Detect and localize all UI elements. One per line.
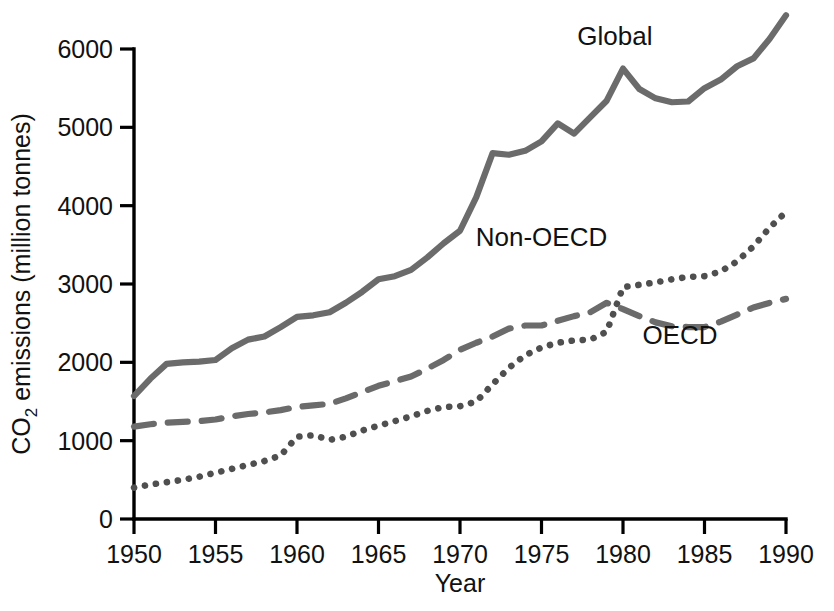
y-tick-label: 5000 xyxy=(57,113,113,141)
series-label-non-oecd: Non-OECD xyxy=(476,222,607,252)
y-tick-label: 4000 xyxy=(57,192,113,220)
x-tick-label: 1970 xyxy=(432,540,488,568)
x-tick-label: 1980 xyxy=(595,540,651,568)
y-tick-label: 3000 xyxy=(57,270,113,298)
series-label-global: Global xyxy=(577,21,652,51)
chart-figure: 0100020003000400050006000 19501955196019… xyxy=(0,0,834,611)
y-tick-label: 2000 xyxy=(57,348,113,376)
x-tick-label: 1990 xyxy=(758,540,814,568)
x-tick-label: 1975 xyxy=(514,540,570,568)
y-axis-title-main: CO xyxy=(7,417,35,455)
y-tick-group: 0100020003000400050006000 xyxy=(57,35,134,533)
y-tick-label: 1000 xyxy=(57,427,113,455)
x-tick-group: 195019551960196519701975198019851990 xyxy=(106,519,814,568)
series-label-oecd: OECD xyxy=(642,320,717,350)
x-tick-label: 1965 xyxy=(351,540,407,568)
co2-emissions-line-chart: 0100020003000400050006000 19501955196019… xyxy=(0,0,834,611)
y-axis-title-subscript: 2 xyxy=(22,408,41,417)
x-tick-label: 1985 xyxy=(677,540,733,568)
data-series-group xyxy=(134,15,786,487)
y-axis-title-rest: emissions (million tonnes) xyxy=(7,113,35,408)
x-tick-label: 1960 xyxy=(269,540,325,568)
y-axis-title: CO2 emissions (million tonnes) xyxy=(7,113,41,455)
x-tick-label: 1950 xyxy=(106,540,162,568)
x-tick-label: 1955 xyxy=(188,540,244,568)
x-axis-title: Year xyxy=(435,569,486,597)
y-tick-label: 6000 xyxy=(57,35,113,63)
y-tick-label: 0 xyxy=(99,505,113,533)
